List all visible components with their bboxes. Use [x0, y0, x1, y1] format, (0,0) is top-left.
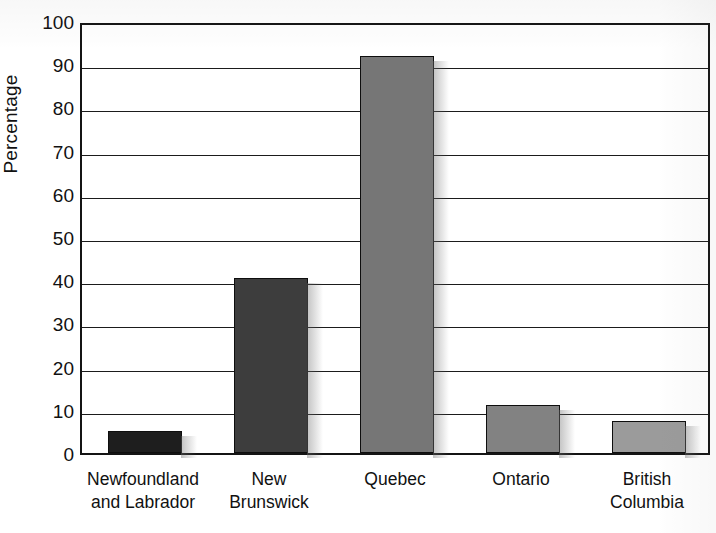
- x-axis-tick-label-line: British: [584, 468, 710, 491]
- bar: [360, 56, 434, 453]
- plot-area: [80, 23, 710, 455]
- x-axis-tick-label: BritishColumbia: [584, 468, 710, 514]
- bar: [486, 405, 560, 453]
- y-axis-tick-label: 50: [18, 229, 74, 248]
- x-axis-tick-label-line: Columbia: [584, 491, 710, 514]
- x-axis-tick-label-line: Ontario: [458, 468, 584, 491]
- y-axis-tick-label: 70: [18, 143, 74, 162]
- x-axis-tick-label-line: Newfoundland: [80, 468, 206, 491]
- y-axis-tick-label: 60: [18, 186, 74, 205]
- x-axis-tick-label-line: Brunswick: [206, 491, 332, 514]
- y-axis-tick-label: 0: [18, 445, 74, 464]
- x-axis-tick-label: Quebec: [332, 468, 458, 491]
- y-axis-tick-label: 10: [18, 402, 74, 421]
- y-axis-tick-label: 30: [18, 315, 74, 334]
- y-axis-tick-labels: 0102030405060708090100: [18, 0, 74, 533]
- y-axis-tick-label: 100: [18, 13, 74, 32]
- bars-layer: [82, 25, 708, 453]
- y-axis-tick-label: 40: [18, 272, 74, 291]
- y-axis-tick-label: 20: [18, 359, 74, 378]
- y-axis-tick-label: 80: [18, 99, 74, 118]
- bar-chart-figure: Percentage 0102030405060708090100 Newfou…: [0, 0, 716, 533]
- x-axis-tick-label: Ontario: [458, 468, 584, 491]
- x-axis-tick-label-line: and Labrador: [80, 491, 206, 514]
- x-axis-tick-labels: Newfoundlandand LabradorNewBrunswickQueb…: [80, 468, 710, 530]
- x-axis-tick-label-line: Quebec: [332, 468, 458, 491]
- x-axis-tick-label: NewBrunswick: [206, 468, 332, 514]
- bar: [612, 421, 686, 453]
- bar: [108, 431, 182, 453]
- x-axis-tick-label-line: New: [206, 468, 332, 491]
- x-axis-tick-label: Newfoundlandand Labrador: [80, 468, 206, 514]
- y-axis-tick-label: 90: [18, 56, 74, 75]
- bar: [234, 278, 308, 453]
